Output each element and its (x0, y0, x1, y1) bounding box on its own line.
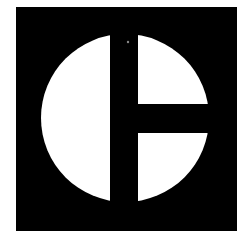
speck (127, 41, 129, 43)
horizontal-bar (138, 104, 218, 133)
vertical-bar (110, 20, 138, 220)
logo-mark (0, 0, 243, 245)
